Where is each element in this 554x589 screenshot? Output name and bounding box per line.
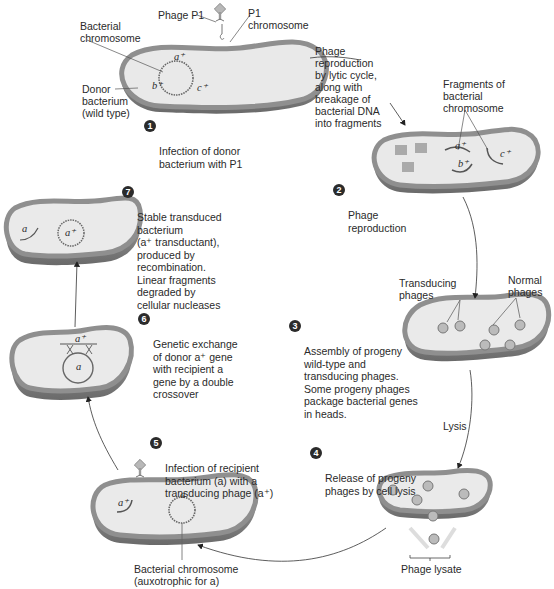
recipient-gene-a: a (76, 361, 81, 373)
transduced-gene-a-plus: a⁺ (118, 497, 129, 509)
donor-gene-a-plus: a⁺ (75, 333, 86, 345)
phage-lysate-label: Phage lysate (401, 563, 462, 575)
donor-bacterium-label: Donor bacterium (wild type) (82, 83, 130, 119)
step-6-text: Genetic exchange of donor a⁺ gene with r… (153, 338, 238, 401)
recipient-chromosome-label: Bacterial chromosome (auxotrophic for a) (134, 563, 238, 587)
fragments-label: Fragments of bacterial chromosome (443, 78, 505, 114)
phage-p1-label: Phage P1 (158, 9, 204, 21)
normal-phages-label: Normal phages (508, 274, 542, 298)
bacterial-chromosome-label: Bacterial chromosome (80, 20, 141, 44)
recipient-gene-a: a (180, 489, 185, 501)
gene-b-plus: b⁺ (152, 80, 163, 92)
step-2: 2 Phage reproduction (333, 184, 406, 247)
cell-stage6 (12, 327, 132, 400)
step-number-badge: 7 (122, 186, 134, 198)
step-4: 4 Release of progeny phages by cell lysi… (310, 447, 416, 510)
step-3-text: Assembly of progeny wild-type and transd… (304, 345, 418, 420)
step-number-badge: 2 (333, 184, 345, 196)
cell-stage3 (405, 294, 549, 361)
step-7-text: Stable transduced bacterium (a⁺ transduc… (137, 211, 222, 311)
gene-c-plus: c⁺ (197, 82, 208, 94)
chromosome-gene-a-plus: a⁺ (65, 227, 76, 239)
gene-a-plus: a⁺ (174, 51, 185, 63)
step-number-badge: 5 (150, 437, 162, 449)
step-1: 1 Infection of donor bacterium with P1 (144, 120, 242, 183)
step-7: 7 Stable transduced bacterium (a⁺ transd… (122, 186, 222, 324)
step-4-text: Release of progeny phages by cell lysis (325, 472, 416, 497)
lytic-cycle-note: Phage reproduction by lytic cycle, along… (315, 45, 382, 129)
step-5: 5 Infection of recipient bacterium (a) w… (150, 437, 273, 512)
step-1-text: Infection of donor bacterium with P1 (159, 145, 242, 170)
step-number-badge: 4 (310, 447, 322, 459)
fragment-gene-b-plus: b⁺ (458, 158, 469, 170)
fragment-gene-c-plus: c⁺ (500, 148, 511, 160)
step-3: 3 Assembly of progeny wild-type and tran… (289, 320, 418, 433)
step-number-badge: 1 (144, 120, 156, 132)
fragment-gene-a: a (22, 223, 27, 235)
step-number-badge: 3 (289, 320, 301, 332)
lysis-label: Lysis (443, 420, 467, 432)
step-2-text: Phage reproduction (348, 209, 406, 234)
step-6: 6 Genetic exchange of donor a⁺ gene with… (138, 313, 238, 413)
fragment-gene-a-plus: a⁺ (455, 140, 466, 152)
transducing-phages-label: Transducing phages (399, 277, 456, 301)
p1-chromosome-label: P1 chromosome (248, 7, 309, 31)
